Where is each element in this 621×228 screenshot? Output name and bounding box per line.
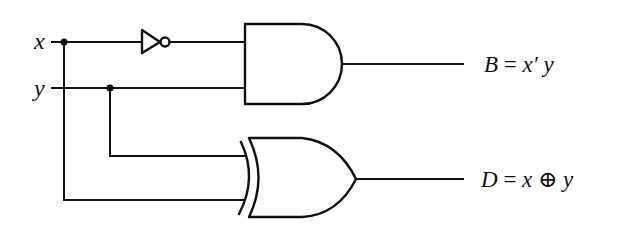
and-gate	[245, 24, 342, 104]
not-gate	[142, 30, 170, 53]
circuit-diagram: x y B = x′ y D = x ⊕ y	[0, 0, 621, 228]
junction-dot-y	[107, 85, 114, 92]
output-label-d: D = x ⊕ y	[480, 167, 574, 192]
xor-gate	[239, 138, 356, 217]
input-label-x: x	[33, 28, 45, 54]
output-label-b: B = x′ y	[484, 52, 555, 77]
junction-dot-x	[61, 39, 68, 46]
wire-x	[52, 39, 245, 201]
wire-y	[52, 85, 246, 157]
input-label-y: y	[32, 75, 45, 101]
